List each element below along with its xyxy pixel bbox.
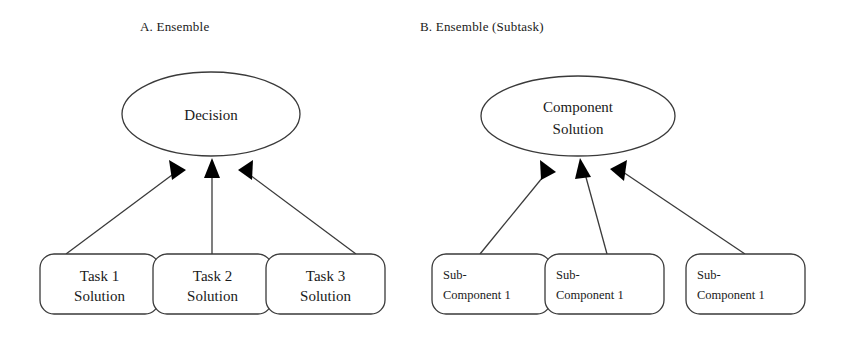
node-b-root-line-1: Component (543, 99, 614, 115)
node-a-leaf-3[interactable]: Task 3 Solution (266, 254, 385, 314)
node-a-leaf-2-line-2: Solution (187, 288, 238, 304)
node-b-leaf-3[interactable]: Sub- Component 1 (686, 254, 805, 314)
arrowhead-b-2 (575, 158, 591, 179)
arrowhead-a-1 (169, 160, 186, 180)
node-a-root-line-1: Decision (184, 107, 238, 123)
rounded-rect-shape (153, 254, 272, 314)
node-b-leaf-1[interactable]: Sub- Component 1 (432, 254, 551, 314)
node-b-leaf-2-line-2: Component 1 (556, 288, 624, 302)
edge-b-1 (480, 172, 547, 254)
edge-b-2 (584, 170, 607, 254)
panel-b: B. Ensemble (Subtask) Component Solution… (420, 19, 805, 314)
arrowhead-b-1 (540, 160, 556, 180)
node-b-leaf-3-line-1: Sub- (697, 268, 721, 282)
edge-a-3 (246, 172, 356, 254)
node-a-leaf-2-line-1: Task 2 (193, 268, 232, 284)
node-b-root-line-2: Solution (553, 121, 604, 137)
node-b-leaf-3-line-2: Component 1 (697, 288, 765, 302)
node-a-leaf-3-line-2: Solution (300, 288, 351, 304)
panel-b-title: B. Ensemble (Subtask) (420, 19, 544, 34)
diagram-canvas: A. Ensemble Decision Task 1 Solution (0, 0, 843, 343)
rounded-rect-shape (40, 254, 159, 314)
rounded-rect-shape (266, 254, 385, 314)
panel-a-edges (66, 158, 356, 254)
node-a-leaf-1-line-1: Task 1 (80, 268, 119, 284)
node-a-leaf-3-line-1: Task 3 (306, 268, 345, 284)
edge-a-1 (66, 172, 176, 254)
diagram-svg: A. Ensemble Decision Task 1 Solution (0, 0, 843, 343)
node-a-leaf-1[interactable]: Task 1 Solution (40, 254, 159, 314)
rounded-rect-shape (545, 254, 664, 314)
panel-a-title: A. Ensemble (140, 19, 209, 34)
node-b-leaf-2-line-1: Sub- (556, 268, 580, 282)
panel-b-edges (480, 158, 745, 254)
node-b-leaf-1-line-2: Component 1 (443, 288, 511, 302)
node-a-leaf-1-line-2: Solution (74, 288, 125, 304)
arrowhead-b-3 (610, 160, 627, 181)
node-a-root[interactable]: Decision (122, 72, 300, 156)
arrowhead-a-3 (238, 160, 253, 180)
rounded-rect-shape (432, 254, 551, 314)
panel-a: A. Ensemble Decision Task 1 Solution (40, 19, 385, 314)
ellipse-shape (481, 76, 675, 156)
node-b-root[interactable]: Component Solution (481, 76, 675, 156)
node-a-leaf-2[interactable]: Task 2 Solution (153, 254, 272, 314)
arrowhead-a-2 (204, 158, 220, 178)
rounded-rect-shape (686, 254, 805, 314)
edge-b-3 (620, 170, 745, 254)
node-b-leaf-1-line-1: Sub- (443, 268, 467, 282)
node-b-leaf-2[interactable]: Sub- Component 1 (545, 254, 664, 314)
